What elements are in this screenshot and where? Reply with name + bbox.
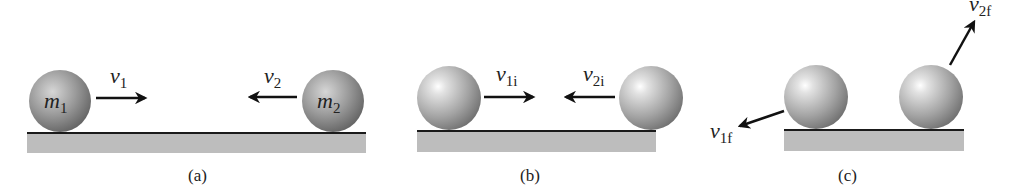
caption-c: (c) bbox=[838, 166, 857, 185]
velocity-label-1: v1 bbox=[110, 63, 127, 91]
collision-diagram: m1 m2 v1 v2 (a) v1i v2i (b) v1f v2f (c) bbox=[0, 0, 1020, 189]
ball-1 bbox=[784, 65, 848, 129]
panel-b: v1i v2i (b) bbox=[417, 61, 683, 185]
caption-a: (a) bbox=[188, 166, 207, 185]
velocity-label-2f: v2f bbox=[969, 0, 991, 19]
floor bbox=[417, 131, 656, 152]
arrow-up-right-icon bbox=[950, 22, 974, 65]
velocity-label-2i: v2i bbox=[583, 61, 604, 89]
velocity-label-1i: v1i bbox=[496, 61, 517, 89]
velocity-label-1f: v1f bbox=[710, 118, 732, 146]
ball-1 bbox=[417, 66, 481, 130]
velocity-label-2: v2 bbox=[264, 63, 281, 91]
panel-c: v1f v2f (c) bbox=[710, 0, 991, 185]
caption-b: (b) bbox=[520, 166, 540, 185]
arrow-down-left-icon bbox=[740, 111, 784, 126]
ball-2 bbox=[619, 66, 683, 130]
floor bbox=[784, 130, 964, 151]
ball-2 bbox=[899, 65, 963, 129]
floor bbox=[27, 133, 366, 153]
panel-a: m1 m2 v1 v2 (a) bbox=[27, 63, 366, 185]
